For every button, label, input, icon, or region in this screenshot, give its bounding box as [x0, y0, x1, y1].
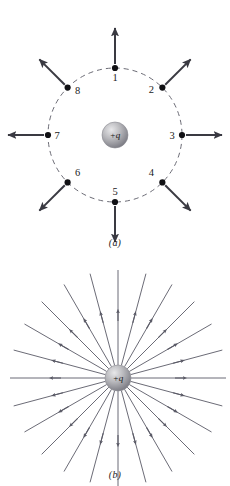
field-point-2: 2 — [149, 59, 191, 94]
field-point-1: 1 — [112, 28, 118, 83]
point-marker-2 — [159, 85, 165, 91]
caption-a: (a) — [0, 237, 230, 248]
field-line — [42, 387, 109, 454]
point-label-3: 3 — [169, 130, 174, 141]
point-label-8: 8 — [75, 85, 80, 96]
field-point-5: 5 — [112, 186, 118, 242]
panel-b-field-lines: +q — [0, 255, 230, 486]
point-marker-6 — [65, 179, 71, 185]
point-label-7: 7 — [54, 130, 59, 141]
point-marker-7 — [45, 132, 51, 138]
point-marker-8 — [65, 85, 71, 91]
point-label-1: 1 — [112, 72, 117, 83]
force-arrow-6 — [39, 185, 64, 210]
field-point-7: 7 — [8, 130, 60, 141]
charge-sphere: +q — [102, 122, 128, 148]
field-line — [127, 387, 194, 454]
charge-label: +q — [113, 373, 124, 383]
field-point-4: 4 — [149, 167, 191, 210]
charge-label: +q — [110, 130, 121, 140]
panel-a-point-charge-forces: 12345678+q — [0, 0, 230, 255]
point-marker-3 — [179, 132, 185, 138]
point-marker-5 — [112, 199, 118, 205]
point-label-5: 5 — [112, 186, 117, 197]
panel-b-svg: +q — [0, 255, 230, 486]
field-line — [42, 302, 109, 369]
charge-sphere: +q — [105, 365, 131, 391]
panel-a-svg: 12345678+q — [0, 0, 230, 255]
field-point-8: 8 — [39, 59, 80, 95]
force-arrow-4 — [165, 185, 190, 210]
point-marker-4 — [159, 179, 165, 185]
field-line — [127, 302, 194, 369]
point-marker-1 — [112, 65, 118, 71]
point-label-6: 6 — [75, 167, 80, 178]
caption-b: (b) — [0, 469, 230, 480]
figure-root: 12345678+q (a) +q (b) — [0, 0, 230, 486]
point-label-4: 4 — [149, 167, 155, 178]
field-point-3: 3 — [169, 130, 222, 141]
force-arrow-8 — [39, 59, 64, 84]
point-label-2: 2 — [149, 84, 154, 95]
field-point-6: 6 — [39, 167, 80, 210]
force-arrow-2 — [165, 59, 190, 84]
